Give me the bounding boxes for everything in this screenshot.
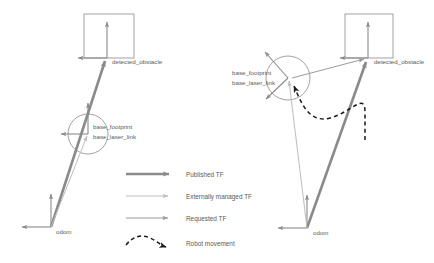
legend-label-published-tf: Published TF [186, 171, 224, 178]
frame-axes-odom-right [278, 195, 307, 228]
tf-arrow-odom-to-detected-obstacle-right [307, 62, 366, 228]
diagram-canvas: detected_obstacle base_footprint base_la… [0, 0, 434, 263]
legend-label-requested-tf: Requested TF [186, 215, 226, 223]
obstacle-box-left [84, 14, 134, 58]
diagram-svg: detected_obstacle base_footprint base_la… [0, 0, 434, 263]
frame-label-base-footprint-right: base_footprint [232, 69, 271, 76]
frame-label-detected-obstacle-left: detected_obstacle [112, 58, 163, 65]
frame-label-odom-right: odom [313, 229, 328, 236]
frame-label-odom-left: odom [56, 228, 71, 235]
left-panel: detected_obstacle base_footprint base_la… [22, 14, 163, 235]
tf-arrow-odom-to-base-footprint-left [51, 136, 87, 227]
frame-axes-detected-obstacle-left [78, 22, 107, 58]
obstacle-box-right [345, 14, 393, 58]
frame-label-base-footprint-left: base_footprint [93, 123, 132, 130]
frame-label-base-laser-link-left: base_laser_link [93, 133, 137, 140]
legend-swatch-robot-movement [126, 236, 166, 247]
tf-arrow-odom-to-detected-obstacle-left [51, 61, 105, 227]
frame-axes-odom-left [22, 194, 51, 227]
frame-label-base-laser-link-right: base_laser_link [232, 79, 276, 86]
legend-label-externally-managed-tf: Externally managed TF [186, 193, 252, 201]
tf-arrow-odom-to-base-footprint-right [289, 81, 307, 228]
legend-label-robot-movement: Robot movement [186, 240, 235, 247]
legend: Published TF Externally managed TF Reque… [126, 171, 252, 248]
right-panel: detected_obstacle base_footprint base_la… [232, 14, 425, 236]
frame-axes-detected-obstacle-right [340, 22, 368, 58]
frame-label-detected-obstacle-right: detected_obstacle [374, 58, 425, 65]
